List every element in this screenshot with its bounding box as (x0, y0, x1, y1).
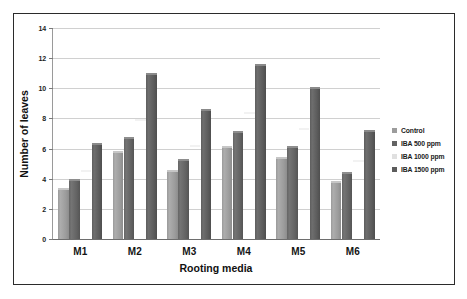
bar-group: M4 (217, 28, 272, 239)
bar-group-bars (271, 28, 326, 239)
legend-swatch-icon (392, 167, 397, 172)
bar[interactable] (331, 181, 342, 239)
bar[interactable] (353, 160, 364, 239)
legend-item[interactable]: IBA 1500 ppm (392, 163, 460, 175)
bar-group: M6 (326, 28, 381, 239)
bar[interactable] (364, 130, 375, 239)
bar-cap (201, 109, 212, 111)
bar-chart: Number of leaves 02468101214M1M2M3M4M5M6… (0, 0, 467, 299)
plot-area: 02468101214M1M2M3M4M5M6 (52, 28, 380, 240)
bar-cap (178, 159, 189, 161)
legend-label: IBA 1500 ppm (401, 166, 445, 173)
figure-container: Number of leaves 02468101214M1M2M3M4M5M6… (0, 0, 467, 299)
bar-cap (233, 131, 244, 133)
bar-group-bars (53, 28, 108, 239)
legend-swatch-icon (392, 128, 397, 133)
bar-group-bars (326, 28, 381, 239)
legend-item[interactable]: Control (392, 124, 460, 136)
bar-cap (353, 160, 364, 162)
bar[interactable] (287, 146, 298, 239)
x-axis-tick-label: M4 (217, 246, 272, 257)
legend-swatch-icon (392, 141, 397, 146)
bar-group: M2 (108, 28, 163, 239)
y-axis-tick-label: 14 (39, 25, 46, 32)
bar-cap (113, 151, 124, 153)
bar-cap (167, 170, 178, 172)
bar[interactable] (167, 170, 178, 239)
bar-cap (222, 146, 233, 148)
bar[interactable] (342, 172, 353, 239)
bar-cap (310, 87, 321, 89)
bar-group-bars (217, 28, 272, 239)
bar[interactable] (92, 143, 103, 239)
x-axis-tick-label: M1 (53, 246, 108, 257)
legend-label: IBA 500 ppm (401, 140, 441, 147)
bar-cap (135, 119, 146, 121)
x-axis-title: Rooting media (52, 262, 380, 274)
bar-cap (92, 143, 103, 145)
bar[interactable] (146, 73, 157, 239)
bar-cap (58, 188, 69, 190)
x-axis-tick-label: M5 (271, 246, 326, 257)
bar-group-bars (162, 28, 217, 239)
bar-cap (124, 137, 135, 139)
bar[interactable] (244, 112, 255, 239)
bar[interactable] (69, 179, 80, 239)
chart-legend: ControlIBA 500 ppmIBA 1000 ppmIBA 1500 p… (392, 124, 460, 176)
legend-label: Control (401, 127, 424, 134)
bar-cap (146, 73, 157, 75)
bar-cap (81, 170, 92, 172)
bar-cap (342, 172, 353, 174)
x-axis-tick-label: M6 (326, 246, 381, 257)
bar[interactable] (81, 170, 92, 239)
bar[interactable] (299, 128, 310, 239)
bar-cap (276, 157, 287, 159)
legend-item[interactable]: IBA 500 ppm (392, 137, 460, 149)
bar[interactable] (113, 151, 124, 239)
bar-cap (364, 130, 375, 132)
y-axis-tick-label: 10 (39, 85, 46, 92)
bar-group: M1 (53, 28, 108, 239)
y-axis-tick-label: 6 (42, 145, 46, 152)
y-axis-tick-label: 8 (42, 115, 46, 122)
y-axis-title: Number of leaves (18, 90, 30, 178)
bar-cap (299, 128, 310, 130)
bar-cap (244, 112, 255, 114)
bar[interactable] (310, 87, 321, 239)
legend-label: IBA 1000 ppm (401, 153, 445, 160)
bar-cap (331, 181, 342, 183)
bar[interactable] (58, 188, 69, 239)
y-axis-tick-label: 0 (42, 236, 46, 243)
legend-swatch-icon (392, 154, 397, 159)
bar-group-bars (108, 28, 163, 239)
y-axis-tick (49, 239, 53, 240)
y-axis-tick-label: 12 (39, 55, 46, 62)
bar-cap (287, 146, 298, 148)
bar[interactable] (124, 137, 135, 239)
y-axis-tick-label: 4 (42, 175, 46, 182)
bar[interactable] (135, 119, 146, 239)
bar[interactable] (255, 64, 266, 239)
x-axis-tick-label: M2 (108, 246, 163, 257)
bar[interactable] (201, 109, 212, 239)
bar-group: M5 (271, 28, 326, 239)
bar-cap (190, 145, 201, 147)
bar-cap (255, 64, 266, 66)
bar[interactable] (190, 145, 201, 239)
bar[interactable] (276, 157, 287, 239)
bar[interactable] (222, 146, 233, 239)
x-axis-tick-label: M3 (162, 246, 217, 257)
y-axis-tick-label: 2 (42, 205, 46, 212)
bar[interactable] (233, 131, 244, 240)
bar[interactable] (178, 159, 189, 239)
bar-group: M3 (162, 28, 217, 239)
bar-cap (69, 179, 80, 181)
legend-item[interactable]: IBA 1000 ppm (392, 150, 460, 162)
